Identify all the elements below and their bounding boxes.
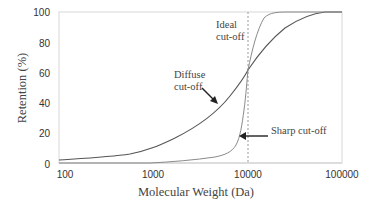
ideal-label: Ideal [216,19,237,30]
x-tick: 10000 [234,169,262,180]
y-tick: 60 [39,68,51,79]
x-axis-label: Molecular Weight (Da) [138,185,254,199]
diffuse-label: Diffuse [174,69,206,80]
y-axis-label: Retention (%) [15,53,29,123]
y-tick: 0 [44,159,50,170]
x-tick: 100000 [325,169,359,180]
ideal-label: cut-off [216,31,245,42]
x-tick: 1000 [142,169,165,180]
x-tick: 100 [57,169,74,180]
y-tick: 80 [39,38,51,49]
y-tick: 100 [33,7,50,18]
y-tick: 20 [39,128,51,139]
y-tick: 40 [39,98,51,109]
diffuse-label: cut-off [174,81,203,92]
sharp-label: Sharp cut-off [271,125,327,136]
retention-chart: 100 80 60 40 20 0 100 1000 10000 100000 … [0,0,379,208]
